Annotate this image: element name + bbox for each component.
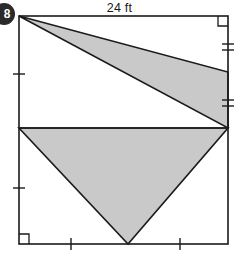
geometry-figure-container: 8 24 ft <box>0 0 239 255</box>
lower-shaded-triangle <box>19 128 228 244</box>
right-angle-bottom-left-icon <box>19 234 29 244</box>
upper-shaded-triangle <box>19 16 228 128</box>
figure-svg <box>0 0 239 255</box>
right-angle-top-right-icon <box>218 16 228 26</box>
